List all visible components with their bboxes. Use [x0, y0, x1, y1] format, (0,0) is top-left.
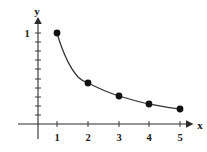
x-tick-label-5: 5	[177, 132, 182, 143]
plot-area: y x 1 1 2 3 4 5	[0, 0, 207, 152]
data-point-4	[146, 101, 153, 108]
x-tick-label-1: 1	[54, 132, 59, 143]
data-point-1	[54, 30, 61, 37]
x-axis-label: x	[197, 119, 203, 131]
data-point-3	[116, 93, 123, 100]
y-tick-label-1: 1	[24, 28, 29, 39]
x-tick-label-3: 3	[116, 132, 121, 143]
chart-figure: y x 1 1 2 3 4 5	[0, 0, 207, 152]
data-point-2	[85, 80, 92, 87]
data-point-5	[177, 106, 184, 113]
y-axis-label: y	[34, 5, 40, 17]
y-axis-arrow-icon	[34, 17, 42, 24]
x-axis-arrow-icon	[186, 120, 194, 128]
x-tick-label-2: 2	[85, 132, 90, 143]
x-tick-label-4: 4	[146, 132, 152, 143]
